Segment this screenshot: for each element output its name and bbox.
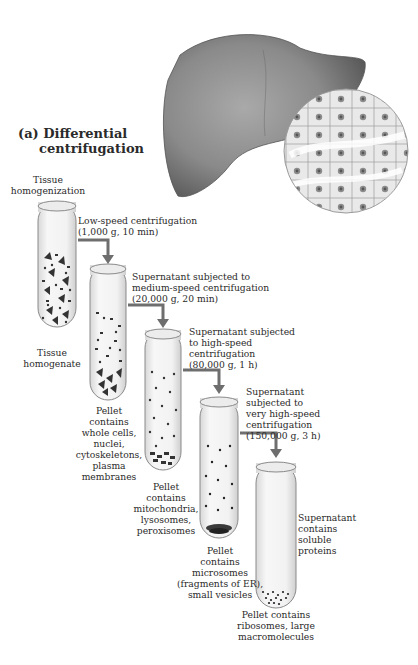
label-line: soluble <box>298 534 356 545</box>
label-line: (20,000 g, 20 min) <box>132 293 269 304</box>
label-line: subjected to <box>246 397 321 408</box>
tissue-homogenization-label: Tissue homogenization <box>6 174 90 196</box>
tube-2 <box>90 264 126 400</box>
tissue-homogenate-label: Tissue homogenate <box>12 347 92 369</box>
label-line: Low-speed centrifugation <box>78 215 197 226</box>
label-line: homogenization <box>6 185 90 196</box>
label-line: centrifugation <box>246 419 321 430</box>
label-line: contains <box>172 556 268 567</box>
label-line: (80,000 g, 1 h) <box>189 359 295 370</box>
label-line: (1,000 g, 10 min) <box>78 226 197 237</box>
label-line: Tissue <box>12 347 92 358</box>
label-line: plasma <box>66 460 152 471</box>
label-line: Pellet <box>66 405 152 416</box>
label-line: Pellet <box>172 545 268 556</box>
pellet-2-label: Pellet contains mitochondria, lysosomes,… <box>128 481 204 536</box>
title-line2: centrifugation <box>18 141 144 156</box>
label-line: macromolecules <box>226 631 326 642</box>
title-line1: Differential <box>43 126 127 141</box>
label-line: Pellet <box>128 481 204 492</box>
label-line: lysosomes, <box>128 514 204 525</box>
pellet-4-label: Pellet contains ribosomes, large macromo… <box>226 609 326 642</box>
label-line: peroxisomes <box>128 525 204 536</box>
label-line: small vesicles <box>172 589 268 600</box>
figure-title: (a) Differential centrifugation <box>18 126 144 156</box>
label-line: Supernatant subjected to <box>132 271 269 282</box>
tube-4 <box>200 397 238 538</box>
label-line: Supernatant <box>298 512 356 523</box>
label-line: mitochondria, <box>128 503 204 514</box>
tube-1 <box>38 201 76 327</box>
label-line: very high-speed <box>246 408 321 419</box>
label-line: homogenate <box>12 358 92 369</box>
label-line: contains <box>298 523 356 534</box>
step-2-label: Supernatant subjected to medium-speed ce… <box>132 271 269 304</box>
label-line: Pellet contains <box>226 609 326 620</box>
step-4-label: Supernatant subjected to very high-speed… <box>246 386 321 441</box>
label-line: to high-speed <box>189 337 295 348</box>
label-line: contains <box>66 416 152 427</box>
label-line: proteins <box>298 545 356 556</box>
label-line: ribosomes, large <box>226 620 326 631</box>
label-line: (150,000 g, 3 h) <box>246 430 321 441</box>
title-prefix: (a) <box>18 126 39 141</box>
pellet-1-label: Pellet contains whole cells, nuclei, cyt… <box>66 405 152 482</box>
label-line: Tissue <box>6 174 90 185</box>
label-line: centrifugation <box>189 348 295 359</box>
label-line: nuclei, <box>66 438 152 449</box>
label-line: whole cells, <box>66 427 152 438</box>
label-line: Supernatant <box>246 386 321 397</box>
label-line: microsomes <box>172 567 268 578</box>
step-1-label: Low-speed centrifugation (1,000 g, 10 mi… <box>78 215 197 237</box>
label-line: contains <box>128 492 204 503</box>
label-line: Supernatant subjected <box>189 326 295 337</box>
supernatant-soluble-label: Supernatant contains soluble proteins <box>298 512 356 556</box>
hepatocyte-inset <box>284 89 408 213</box>
pellet-3-label: Pellet contains microsomes (fragments of… <box>172 545 268 600</box>
label-line: medium-speed centrifugation <box>132 282 269 293</box>
label-line: (fragments of ER), <box>172 578 268 589</box>
label-line: cytoskeletons, <box>66 449 152 460</box>
step-3-label: Supernatant subjected to high-speed cent… <box>189 326 295 370</box>
